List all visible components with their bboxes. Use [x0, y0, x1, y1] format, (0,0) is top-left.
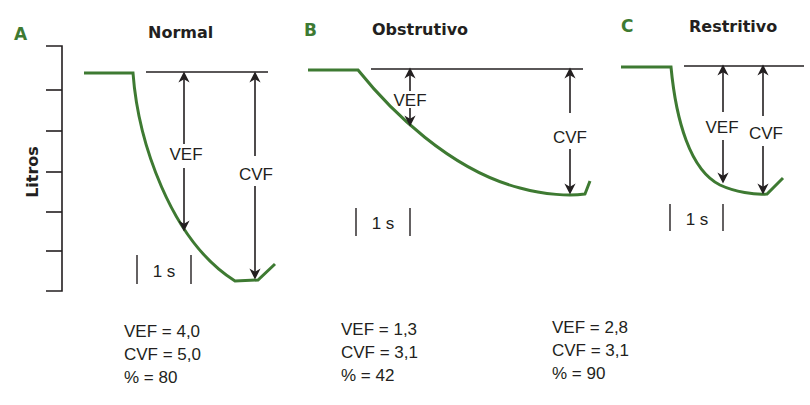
cvf-label: CVF: [749, 124, 783, 143]
panel-normal: A Normal VEF CVF 1 s: [14, 23, 275, 284]
time-scale-label: 1 s: [686, 210, 709, 229]
stat-cvf: CVF = 3,1: [341, 341, 418, 364]
vef-label: VEF: [705, 118, 738, 137]
panel-restritivo: C Restritivo VEF CVF 1 s: [621, 16, 804, 231]
panel-title-obstrutivo: Obstrutivo: [372, 20, 468, 39]
volume-curve: [308, 70, 590, 195]
vef-label: VEF: [393, 91, 426, 110]
stat-cvf: CVF = 3,1: [552, 339, 629, 362]
stats-restritivo: VEF = 2,8 CVF = 3,1 % = 90: [552, 316, 629, 385]
y-axis-label: Litros: [23, 146, 42, 198]
y-axis: [46, 46, 62, 291]
stats-normal: VEF = 4,0 CVF = 5,0 % = 80: [124, 320, 201, 389]
panel-letter-b: B: [304, 20, 317, 40]
panel-title-restritivo: Restritivo: [689, 17, 777, 36]
stat-percent: % = 42: [341, 364, 418, 387]
stat-vef: VEF = 4,0: [124, 320, 201, 343]
stats-obstrutivo: VEF = 1,3 CVF = 3,1 % = 42: [341, 318, 418, 387]
panel-letter-c: C: [621, 16, 633, 36]
stat-vef: VEF = 2,8: [552, 316, 629, 339]
stat-percent: % = 90: [552, 362, 629, 385]
panel-letter-a: A: [14, 24, 28, 44]
cvf-label: CVF: [553, 128, 587, 147]
panel-obstrutivo: B Obstrutivo VEF CVF 1 s: [304, 20, 590, 236]
stat-percent: % = 80: [124, 366, 201, 389]
panel-title-normal: Normal: [148, 23, 213, 42]
vef-label: VEF: [169, 145, 202, 164]
stat-vef: VEF = 1,3: [341, 318, 418, 341]
cvf-label: CVF: [239, 165, 273, 184]
time-scale-label: 1 s: [153, 262, 176, 281]
stat-cvf: CVF = 5,0: [124, 343, 201, 366]
time-scale-label: 1 s: [372, 214, 395, 233]
